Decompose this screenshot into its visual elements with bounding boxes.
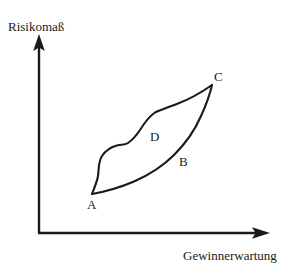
y-axis-label: Risikomaß — [8, 19, 64, 34]
point-label-b: B — [179, 155, 188, 169]
diagram-canvas: Risikomaß Gewinnerwartung A B C D — [0, 0, 302, 274]
point-label-a: A — [87, 198, 96, 212]
point-label-d: D — [150, 130, 159, 144]
x-axis-label: Gewinnerwartung — [183, 248, 277, 263]
point-label-c: C — [214, 70, 223, 84]
